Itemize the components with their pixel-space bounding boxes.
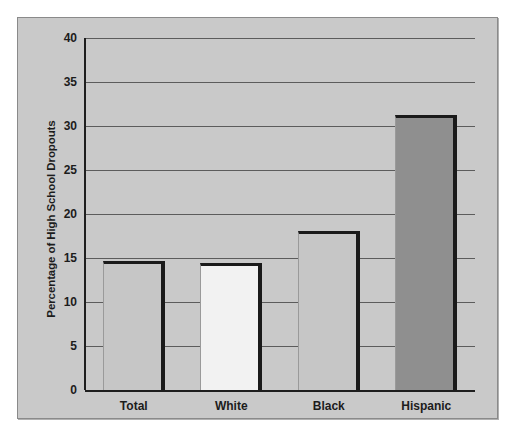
y-tick-label-5: 5 — [70, 339, 77, 353]
chart-frame: Percentage of High School Dropouts 05101… — [17, 17, 498, 419]
y-tick-label-0: 0 — [70, 383, 77, 397]
x-tick-label-white: White — [215, 399, 248, 413]
bar-total[interactable] — [103, 261, 165, 390]
y-axis-line — [84, 38, 86, 390]
bar-white[interactable] — [200, 263, 262, 390]
gridline-35 — [85, 82, 475, 83]
y-tick-label-15: 15 — [64, 251, 77, 265]
y-tick-label-35: 35 — [64, 75, 77, 89]
plot-area: 0510152025303540TotalWhiteBlackHispanic — [85, 38, 475, 390]
x-tick-label-hispanic: Hispanic — [401, 399, 451, 413]
x-tick-label-black: Black — [313, 399, 345, 413]
gridline-40 — [85, 38, 475, 39]
y-tick-label-10: 10 — [64, 295, 77, 309]
figure: Percentage of High School Dropouts 05101… — [0, 0, 516, 437]
bar-black[interactable] — [298, 231, 360, 390]
y-tick-label-40: 40 — [64, 31, 77, 45]
y-tick-label-20: 20 — [64, 207, 77, 221]
y-tick-label-25: 25 — [64, 163, 77, 177]
x-tick-label-total: Total — [120, 399, 148, 413]
y-tick-label-30: 30 — [64, 119, 77, 133]
bar-hispanic[interactable] — [395, 115, 457, 390]
y-axis-title: Percentage of High School Dropouts — [40, 18, 62, 420]
gridline-0 — [85, 390, 475, 392]
